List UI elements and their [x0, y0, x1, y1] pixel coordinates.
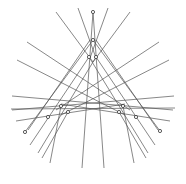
point-marker-icon: [158, 129, 161, 132]
point-marker-icon: [91, 38, 94, 41]
point-marker-icon: [46, 115, 49, 118]
point-marker-icon: [94, 55, 97, 58]
diagram-line: [93, 12, 130, 62]
diagram-line: [16, 104, 125, 121]
diagram-line: [89, 57, 148, 153]
diagram-line: [96, 57, 155, 145]
point-marker-icon: [91, 10, 94, 13]
point-marker-icon: [23, 130, 26, 133]
point-marker-icon: [66, 110, 69, 113]
diagram-line: [38, 57, 96, 153]
diagram-line: [119, 112, 146, 158]
diagram-line: [61, 104, 170, 121]
diagram-line: [30, 57, 89, 145]
diagram-line: [27, 42, 130, 110]
diagram-line: [96, 40, 158, 130]
line-arrangement-diagram: [0, 0, 186, 184]
point-marker-icon: [121, 104, 124, 107]
diagram-line: [56, 42, 159, 110]
point-marker-icon: [117, 110, 120, 113]
diagram-lines: [11, 8, 175, 168]
point-marker-icon: [87, 55, 90, 58]
point-marker-icon: [134, 115, 137, 118]
diagram-line: [56, 12, 93, 62]
point-marker-icon: [59, 104, 62, 107]
intersection-markers: [23, 10, 161, 133]
diagram-line: [42, 112, 68, 158]
